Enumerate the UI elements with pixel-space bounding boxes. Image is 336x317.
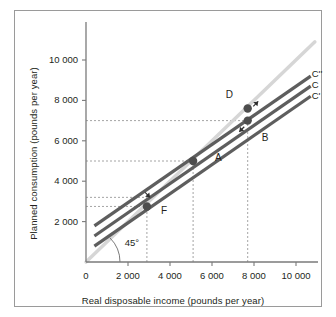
y-tick-label-1: 4 000	[24, 175, 78, 186]
data-point-B[interactable]	[244, 116, 252, 124]
x-tick-label-5: 10 000	[271, 270, 321, 281]
data-point-D[interactable]	[244, 104, 252, 112]
y-tick-label-4: 10 000	[24, 54, 78, 65]
data-point-A[interactable]	[189, 157, 197, 165]
point-label-A: A	[215, 152, 222, 163]
series-label-Cprime: C'	[312, 90, 321, 101]
series-label-Cprimeprime: C''	[312, 68, 323, 79]
consumption-line-Cprimeprime	[94, 76, 310, 226]
point-label-B: B	[262, 132, 269, 143]
figure-container: Planned consumption (pounds per year) Re…	[0, 0, 336, 317]
consumption-line-Cprime	[94, 96, 310, 246]
angle-label-45: 45°	[125, 237, 139, 248]
angle-arc-45-icon	[110, 238, 120, 262]
y-tick-label-0: 2 000	[24, 216, 78, 227]
y-tick-label-2: 6 000	[24, 135, 78, 146]
y-tick-label-3: 8 000	[24, 94, 78, 105]
data-point-F[interactable]	[143, 202, 151, 210]
point-label-F: F	[161, 205, 167, 216]
series-label-C: C	[312, 79, 319, 90]
point-label-D: D	[226, 89, 233, 100]
x-axis-title: Real disposable income (pounds per year)	[38, 295, 308, 306]
